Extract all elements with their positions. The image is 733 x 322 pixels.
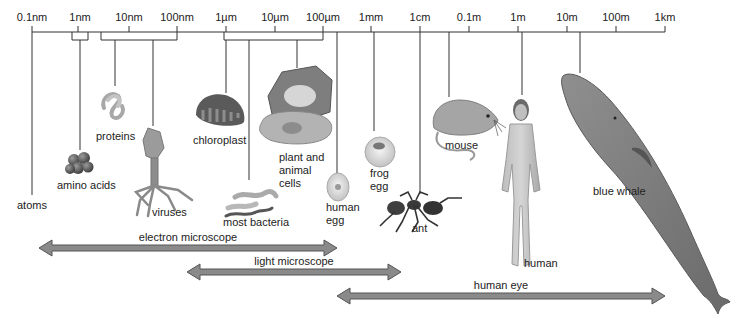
label-light-microscope: light microscope [254,255,333,268]
label-amino-acids: amino acids [57,179,116,192]
frog-egg-illustration [365,137,395,167]
proteins-illustration [103,94,123,118]
label-line: animal [279,164,311,176]
label-electron-microscope: electron microscope [139,231,237,244]
label-viruses: viruses [152,206,187,219]
label-line: egg [370,180,388,192]
amino-acids-illustration [65,152,94,174]
label-mouse: mouse [445,139,478,152]
tick-label: 10m [556,11,577,23]
diagram-graphics [0,0,733,322]
tick-label: 1cm [410,11,431,23]
bacteria-illustration [226,192,276,216]
label-human-eye: human eye [474,279,528,292]
label-blue-whale: blue whale [593,185,646,198]
label-human: human [524,257,558,270]
label-most-bacteria: most bacteria [223,216,289,229]
label-proteins: proteins [96,130,135,143]
human-egg-illustration [327,173,349,201]
tick-label: 100nm [160,11,194,23]
tick-label: 1µm [215,11,237,23]
range-arrows [39,240,665,304]
label-plant-animal-cells: plant and animal cells [279,151,324,190]
tick-label: 1nm [69,11,90,23]
blue-whale-illustration [562,74,730,314]
tick-label: 100m [602,11,630,23]
tick-label: 10nm [115,11,143,23]
label-line: frog [370,167,389,179]
tick-label: 0.1nm [17,11,48,23]
label-line: plant and [279,151,324,163]
label-line: cells [279,177,301,189]
label-frog-egg: frog egg [370,167,389,193]
tick-label: 0.1m [457,11,481,23]
label-line: egg [326,214,344,226]
tick-label: 1m [510,11,525,23]
size-scale-diagram: 0.1nm 1nm 10nm 100nm 1µm 10µm 100µm 1mm … [0,0,733,322]
label-human-egg: human egg [326,201,360,227]
label-ant: ant [412,222,427,235]
label-chloroplast: chloroplast [193,134,246,147]
tick-label: 10µm [261,11,289,23]
label-line: human [326,201,360,213]
label-atoms: atoms [17,199,47,212]
virus-illustration [136,128,192,216]
chloroplast-illustration [196,94,244,126]
tick-label: 100µm [306,11,340,23]
human-illustration [502,99,540,266]
tick-label: 1mm [359,11,383,23]
tick-label: 1km [655,11,676,23]
cells-illustration [260,66,332,144]
